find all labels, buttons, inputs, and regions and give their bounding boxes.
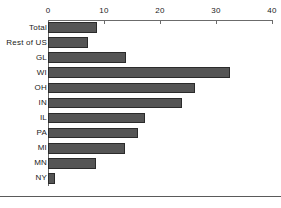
bar-row xyxy=(48,50,272,65)
x-tick-label: 10 xyxy=(99,6,109,15)
bar-row xyxy=(48,80,272,95)
bar-pa xyxy=(48,128,138,139)
category-label-total: Total xyxy=(29,23,47,32)
bar-row xyxy=(48,65,272,80)
category-label-gl: GL xyxy=(36,53,47,62)
bar-total xyxy=(48,22,97,33)
bar-row xyxy=(48,141,272,156)
bar-mn xyxy=(48,158,96,169)
bar-ny xyxy=(48,173,55,184)
bar-in xyxy=(48,98,182,109)
bar-row xyxy=(48,156,272,171)
bar-row xyxy=(48,20,272,35)
bar-wi xyxy=(48,67,230,78)
plot-area: 010203040 xyxy=(48,20,272,186)
footer-divider xyxy=(0,196,281,197)
bar-mi xyxy=(48,143,125,154)
bar-il xyxy=(48,113,145,124)
bar-row xyxy=(48,126,272,141)
x-tick-mark xyxy=(272,20,273,24)
x-tick-label: 0 xyxy=(46,6,51,15)
category-label-in: IN xyxy=(39,98,47,107)
x-tick-label: 40 xyxy=(267,6,277,15)
category-label-pa: PA xyxy=(37,128,47,137)
category-label-wi: WI xyxy=(37,68,47,77)
bar-row xyxy=(48,95,272,110)
bar-row xyxy=(48,35,272,50)
category-label-ny: NY xyxy=(35,173,47,182)
bar-row xyxy=(48,111,272,126)
bar-oh xyxy=(48,83,195,94)
x-tick-label: 30 xyxy=(211,6,221,15)
category-label-mi: MI xyxy=(38,143,47,152)
category-label-mn: MN xyxy=(34,158,47,167)
bar-rest-of-us xyxy=(48,37,88,48)
category-label-rest-of-us: Rest of US xyxy=(6,38,47,47)
category-label-oh: OH xyxy=(35,83,47,92)
category-label-il: IL xyxy=(40,113,47,122)
x-tick-label: 20 xyxy=(155,6,165,15)
bar-chart-figure: 010203040 TotalRest of USGLWIOHINILPAMIM… xyxy=(0,0,281,208)
bar-row xyxy=(48,171,272,186)
bar-gl xyxy=(48,52,126,63)
